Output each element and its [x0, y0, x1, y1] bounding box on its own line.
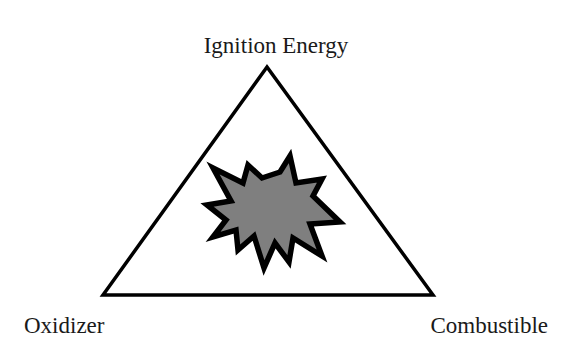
- diagram-graphic: Ignition Energy Oxidizer Combustible: [0, 0, 573, 349]
- fire-triangle-diagram: Ignition Energy Oxidizer Combustible: [0, 0, 573, 349]
- label-combustible: Combustible: [430, 313, 548, 338]
- label-oxidizer: Oxidizer: [24, 313, 105, 338]
- label-ignition-energy: Ignition Energy: [204, 33, 349, 58]
- explosion-burst-icon: [207, 156, 340, 268]
